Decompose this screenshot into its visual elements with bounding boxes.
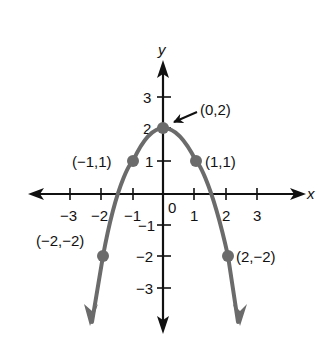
point-label: (0,2) bbox=[200, 101, 231, 118]
point-label: (−1,1) bbox=[72, 153, 112, 170]
data-point bbox=[97, 250, 109, 262]
y-tick-label: 1 bbox=[145, 153, 153, 170]
parabola-chart: −3 −2 −1 1 2 3 x 0 3 2 1 −1 −2 −3 y bbox=[0, 0, 332, 344]
point-labels: (−2,−2) (−1,1) (0,2) (1,1) (2,−2) bbox=[36, 101, 276, 265]
y-axis: 3 2 1 −1 −2 −3 y bbox=[136, 41, 171, 334]
y-axis-label: y bbox=[157, 41, 167, 58]
annotation-arrow-icon bbox=[174, 112, 197, 122]
x-tick-label: 1 bbox=[190, 207, 198, 224]
data-point bbox=[157, 122, 169, 134]
data-point bbox=[222, 250, 234, 262]
data-point bbox=[127, 155, 139, 167]
y-tick-label: −1 bbox=[138, 217, 155, 234]
x-tick-label: 3 bbox=[253, 207, 261, 224]
y-tick-label: 3 bbox=[143, 89, 151, 106]
origin-label: 0 bbox=[168, 199, 176, 216]
point-label: (1,1) bbox=[205, 153, 236, 170]
y-tick-label: −2 bbox=[136, 248, 153, 265]
x-tick-label: 2 bbox=[222, 207, 230, 224]
x-tick-label: −2 bbox=[91, 207, 108, 224]
data-point bbox=[190, 155, 202, 167]
x-tick-label: −3 bbox=[60, 207, 77, 224]
point-label: (−2,−2) bbox=[36, 232, 84, 249]
x-axis: −3 −2 −1 1 2 3 x 0 bbox=[28, 185, 315, 224]
point-label: (2,−2) bbox=[236, 248, 276, 265]
y-tick-label: −3 bbox=[136, 280, 153, 297]
x-axis-label: x bbox=[306, 185, 315, 202]
curve-left-arrow-icon bbox=[84, 304, 98, 326]
